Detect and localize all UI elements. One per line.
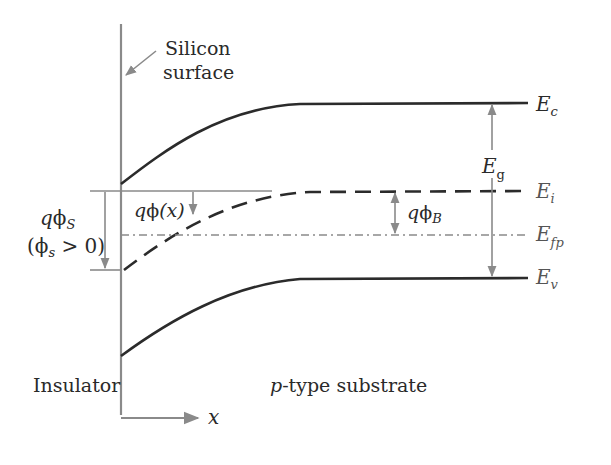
conduction-band-edge: [121, 103, 528, 184]
silicon-surface-label-line1: Silicon: [165, 37, 231, 59]
phi-s-condition-label: (ϕs > 0): [27, 234, 105, 260]
valence-band-edge: [121, 278, 528, 356]
ev-label: Ev: [535, 265, 559, 292]
silicon-surface-pointer-arrow: [126, 51, 156, 75]
ec-label: Ec: [535, 92, 559, 119]
band-diagram: Silicon surface Ec Ei Efp Ev Eg qϕB qϕS …: [0, 0, 611, 465]
eg-label: Eg: [481, 154, 505, 182]
q-phi-x-label: qϕ(x): [134, 199, 185, 221]
q-phi-b-label: qϕB: [407, 201, 442, 226]
q-phi-s-label: qϕS: [40, 206, 75, 232]
ei-label: Ei: [535, 179, 555, 206]
silicon-surface-label-line2: surface: [163, 61, 234, 83]
substrate-label: p-type substrate: [270, 374, 427, 396]
insulator-label: Insulator: [33, 374, 121, 396]
x-axis-label: x: [208, 405, 219, 429]
efp-label: Efp: [535, 222, 564, 250]
